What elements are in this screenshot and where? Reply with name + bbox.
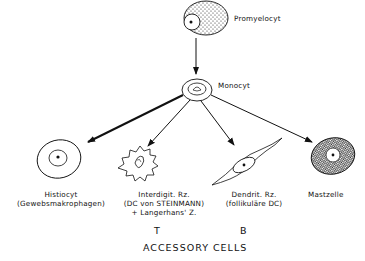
group-label-b: B	[240, 225, 248, 236]
arrow-monocyt-interdigit	[148, 100, 190, 146]
dendrit-label-line2: (follikuläre DC)	[214, 199, 294, 208]
interdigit-label-line2: (DC von STEINMANN)	[114, 199, 214, 208]
histiocyt-label-line1: Histiocyt	[9, 190, 113, 199]
interdigit-label-line3: + Langerhans' Z.	[114, 208, 214, 217]
histiocyt-cell-icon	[33, 135, 85, 183]
mastzelle-cell-icon	[307, 133, 359, 179]
histiocyt-label-line2: (Gewebsmakrophagen)	[9, 199, 113, 208]
arrow-monocyt-dendrit	[201, 101, 234, 145]
diagram-title: ACCESSORY CELLS	[143, 242, 247, 253]
interdigit-label-line1: Interdigit. Rz.	[114, 190, 214, 199]
dendrit-label-line1: Dendrit. Rz.	[214, 190, 294, 199]
group-label-t: T	[154, 225, 161, 236]
interdigit-label: Interdigit. Rz. (DC von STEINMANN) + Lan…	[114, 190, 214, 217]
mastzelle-label: Mastzelle	[308, 190, 344, 199]
interdigitating-cell-icon	[118, 146, 158, 181]
dendritic-cell-icon	[212, 138, 282, 185]
monocyt-cell-icon	[182, 79, 212, 101]
monocyt-label: Monocyt	[218, 81, 250, 90]
promyelocyt-label: Promyelocyt	[234, 14, 281, 23]
dendrit-label: Dendrit. Rz. (follikuläre DC)	[214, 190, 294, 208]
promyelocyt-cell-icon	[184, 1, 228, 35]
arrow-monocyt-histiocyt	[88, 95, 183, 142]
histiocyt-label: Histiocyt (Gewebsmakrophagen)	[9, 190, 113, 208]
diagram-canvas	[0, 0, 365, 261]
